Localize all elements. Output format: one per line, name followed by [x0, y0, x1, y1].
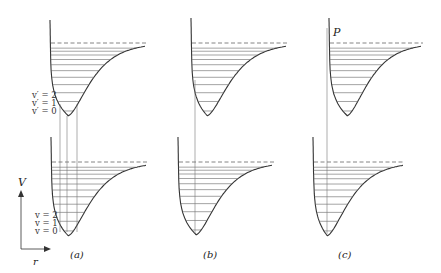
caption-a: (a) [70, 249, 84, 260]
upper-level-label-0: v′ = 0 [31, 106, 57, 116]
caption-c: (c) [338, 249, 352, 260]
lower-level-label-0: v = 0 [34, 226, 58, 236]
x-axis-label: r [33, 256, 39, 267]
caption-b: (b) [203, 249, 217, 260]
point-p-label: P [332, 26, 341, 39]
labels-layer: V r v′ = 2 v′ = 1 v′ = 0 v = 2 v = 1 v =… [0, 0, 441, 273]
y-axis-label: V [18, 176, 27, 189]
